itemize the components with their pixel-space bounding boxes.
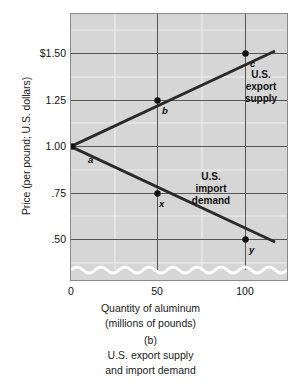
point-label-b: b <box>162 106 168 116</box>
point-label-a: a <box>88 155 93 165</box>
axis-break-wave <box>71 267 287 273</box>
point-label-y: y <box>249 245 254 255</box>
point-label-c: c <box>250 59 255 69</box>
import-demand-label-line2: import <box>195 183 226 194</box>
data-point-c <box>242 50 248 56</box>
data-point-y <box>242 236 248 242</box>
data-point-b <box>154 97 160 103</box>
import-demand-curve <box>71 147 275 243</box>
point-label-x: x <box>159 199 164 209</box>
x-axis-title-line1: Quantity of aluminum <box>0 301 301 316</box>
plot-graphics <box>71 14 287 280</box>
plot-area: a b c x y U.S. export supply U.S. import… <box>70 13 288 281</box>
figure-caption-line1: U.S. export supply <box>0 348 301 363</box>
import-demand-label: U.S. import demand <box>181 171 241 206</box>
import-demand-label-line3: demand <box>192 195 230 206</box>
x-tick-label-0: 0 <box>51 285 91 297</box>
x-tick-label-50: 50 <box>137 285 177 297</box>
y-tick-label-0.50: .50 <box>14 233 66 245</box>
y-tick-label-1.25: 1.25 <box>14 94 66 106</box>
export-supply-label-line2: export <box>246 81 277 92</box>
y-tick-label-1.00: 1.00 <box>14 140 66 152</box>
caption-block: Quantity of aluminum (millions of pounds… <box>0 301 301 378</box>
export-supply-label: U.S. export supply <box>235 69 287 104</box>
y-tick-label-1.50: $1.50 <box>14 47 66 59</box>
panel-letter: (b) <box>0 333 301 348</box>
export-supply-label-line1: U.S. <box>251 69 270 80</box>
x-axis-title-line2: (millions of pounds) <box>0 316 301 331</box>
figure-panel-b: Price (per pound; U.S. dollars) $1.50 1.… <box>0 0 301 383</box>
data-point-x <box>154 190 160 196</box>
export-supply-label-line3: supply <box>245 93 277 104</box>
y-tick-label-0.75: .75 <box>14 187 66 199</box>
figure-caption-line2: and import demand <box>0 363 301 378</box>
import-demand-label-line1: U.S. <box>201 171 220 182</box>
x-tick-label-100: 100 <box>225 285 265 297</box>
